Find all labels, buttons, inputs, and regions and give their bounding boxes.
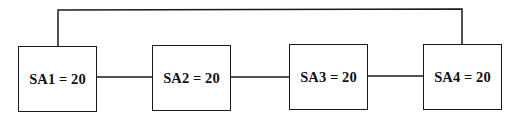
node-sa1-label: SA1 = 20: [29, 71, 86, 88]
ring-topology-diagram: SA1 = 20 SA2 = 20 SA3 = 20 SA4 = 20: [0, 0, 519, 123]
edge-sa1-sa4-loop: [58, 9, 462, 46]
node-sa4: SA4 = 20: [423, 44, 502, 110]
node-sa2-label: SA2 = 20: [163, 70, 220, 87]
node-sa2: SA2 = 20: [152, 45, 231, 111]
node-sa1: SA1 = 20: [18, 46, 97, 112]
node-sa3-label: SA3 = 20: [300, 69, 357, 86]
node-sa3: SA3 = 20: [289, 44, 368, 110]
node-sa4-label: SA4 = 20: [434, 69, 491, 86]
